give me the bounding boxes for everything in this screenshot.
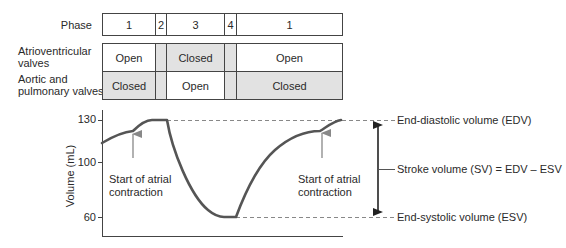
atrial-contraction-label-2-line1: Start of atrial (298, 173, 360, 186)
atrial-contraction-label-2: Start of atrial contraction (298, 173, 360, 199)
atrial-contraction-label-1-line1: Start of atrial (109, 173, 171, 186)
atrial-contraction-label-1: Start of atrial contraction (109, 173, 171, 199)
edv-label: End-diastolic volume (EDV) (397, 114, 532, 127)
volume-curve (102, 120, 341, 217)
y-axis-label: Volume (mL) (64, 136, 77, 216)
atrial-contraction-label-1-line2: contraction (109, 186, 171, 199)
atrial-contraction-label-2-line2: contraction (298, 186, 360, 199)
esv-label: End-systolic volume (ESV) (397, 211, 527, 224)
stroke-volume-label: Stroke volume (SV) = EDV – ESV (397, 163, 562, 176)
y-tick-130: 130 (72, 113, 96, 126)
